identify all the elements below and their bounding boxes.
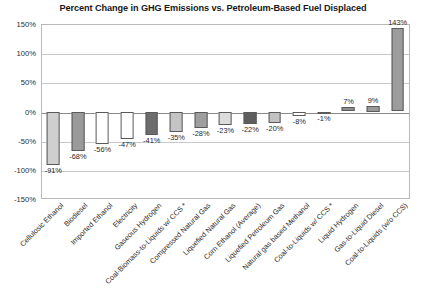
bar-value-label: -20% [266,124,283,133]
bar-value-label: -35% [168,133,185,142]
bar-slot: -47% [115,24,140,199]
bar-slot: -68% [66,24,91,199]
x-axis-labels: Cellulosic EthanolBiodieselImported Etha… [41,201,410,308]
bar[interactable] [145,112,158,136]
bar[interactable] [244,112,257,125]
bar-slot: -8% [287,24,312,199]
bar-slot: -41% [139,24,164,199]
bar[interactable] [342,107,355,111]
chart-title: Percent Change in GHG Emissions vs. Petr… [0,3,426,13]
bar[interactable] [293,112,306,117]
bar-value-label: 9% [368,96,379,105]
bar-value-label: -28% [192,129,209,138]
bar[interactable] [367,106,380,111]
bar-slot: -20% [262,24,287,199]
bar[interactable] [121,112,134,139]
bar-slot: 143% [385,24,410,199]
bar[interactable] [47,112,60,165]
bar-value-label: -56% [94,145,111,154]
bar-slot: -22% [238,24,263,199]
y-axis-tick-label: -100% [0,165,36,174]
bar[interactable] [170,112,183,132]
bar-slot: -91% [41,24,66,199]
bar[interactable] [72,112,85,152]
y-axis-tick-label: 100% [0,49,36,58]
y-axis-tick-label: 150% [0,20,36,29]
bar[interactable] [391,28,404,111]
bar-value-label: -47% [118,140,135,149]
y-axis-tick-label: 50% [0,78,36,87]
bar-value-label: -1% [317,114,330,123]
y-axis-tick-label: 0% [0,107,36,116]
bar-slot: -1% [312,24,337,199]
bar-slot: -28% [189,24,214,199]
bar[interactable] [219,112,232,125]
y-axis: 150%100%50%0%-50%-100%-150% [0,0,38,308]
bar-value-label: -8% [293,117,306,126]
bar-value-label: -41% [143,136,160,145]
y-axis-tick-label: -150% [0,195,36,204]
bar-slot: 7% [336,24,361,199]
bar[interactable] [96,112,109,145]
bar-value-label: 143% [388,18,407,27]
chart-container: Percent Change in GHG Emissions vs. Petr… [0,0,426,308]
bars-layer: -91%-68%-56%-47%-41%-35%-28%-23%-22%-20%… [41,24,410,199]
bar-slot: -56% [90,24,115,199]
bar-slot: -23% [213,24,238,199]
bar-value-label: -22% [241,125,258,134]
bar-value-label: -91% [45,166,62,175]
bar-slot: -35% [164,24,189,199]
bar[interactable] [268,112,281,124]
y-axis-tick-label: -50% [0,136,36,145]
bar-value-label: -23% [217,126,234,135]
bar-value-label: -68% [69,152,86,161]
bar-value-label: 7% [343,97,354,106]
bar-slot: 9% [361,24,386,199]
bar[interactable] [195,112,208,128]
